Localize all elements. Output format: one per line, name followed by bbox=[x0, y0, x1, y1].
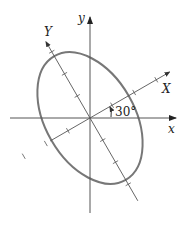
x-axis-tick bbox=[155, 77, 158, 82]
y-axis-tick bbox=[75, 94, 80, 97]
y-axis-tick bbox=[49, 50, 54, 53]
rotated-axes bbox=[46, 42, 169, 201]
x-axis-label: x bbox=[168, 122, 175, 136]
x-axis-tick bbox=[133, 90, 136, 95]
rotated-y-axis bbox=[46, 42, 138, 201]
y-axis-tick bbox=[113, 161, 118, 164]
rotated-axes-ellipse-diagram: x y X Y 30° bbox=[0, 0, 188, 229]
angle-arc-arrow bbox=[110, 107, 111, 117]
rotated-y-axis-label: Y bbox=[44, 25, 53, 39]
y-axis-tick bbox=[126, 183, 131, 186]
rotated-x-axis-label: X bbox=[161, 82, 171, 96]
y-axis-tick bbox=[62, 72, 67, 75]
y-axis-label: y bbox=[77, 11, 85, 25]
rotation-angle-label: 30° bbox=[115, 105, 136, 119]
x-axis-tick bbox=[111, 103, 114, 108]
x-axis-tick bbox=[22, 154, 25, 159]
y-axis-tick bbox=[100, 139, 105, 142]
x-axis-tick bbox=[44, 141, 47, 146]
x-axis-tick bbox=[66, 128, 69, 133]
